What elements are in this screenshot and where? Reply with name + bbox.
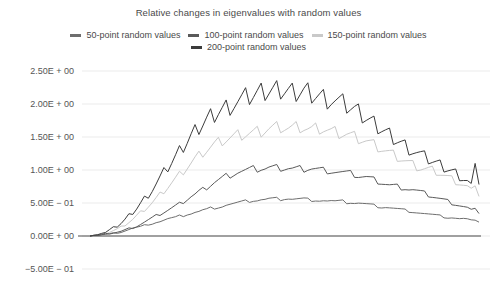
- series-line: [90, 121, 479, 236]
- chart-container: Relative changes in eigenvalues with ran…: [0, 0, 497, 284]
- plot-area: [0, 0, 497, 284]
- plot-svg: [0, 0, 497, 284]
